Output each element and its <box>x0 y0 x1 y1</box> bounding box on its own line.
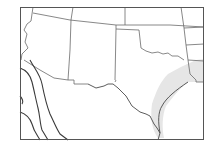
map-canvas <box>0 0 212 156</box>
